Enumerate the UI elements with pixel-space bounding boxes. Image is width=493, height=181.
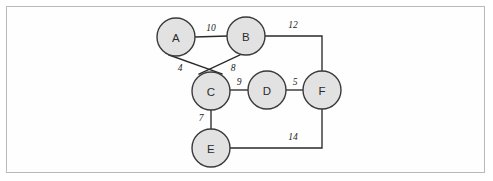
node-f[interactable]: F	[303, 71, 341, 109]
edge-weight-c-e: 7	[199, 113, 205, 123]
edge-weight-d-f: 5	[293, 77, 298, 87]
node-d[interactable]: D	[248, 71, 286, 109]
node-c[interactable]: C	[192, 72, 230, 110]
graph-canvas: A B C D E F 10	[0, 0, 493, 181]
node-a[interactable]: A	[157, 18, 195, 56]
edge-e-f	[230, 109, 322, 148]
node-f-label: F	[318, 85, 325, 97]
node-e-label: E	[207, 143, 215, 155]
edge-b-f	[265, 36, 322, 71]
edge-weight-a-b: 10	[206, 23, 216, 33]
node-group: A B C D E F	[157, 17, 341, 167]
edge-weight-a-c: 4	[178, 63, 183, 73]
node-a-label: A	[172, 32, 180, 44]
node-e[interactable]: E	[192, 129, 230, 167]
edge-a-b	[195, 36, 227, 37]
node-c-label: C	[207, 86, 216, 98]
node-b-label: B	[242, 31, 250, 43]
edge-weight-e-f: 14	[288, 132, 298, 142]
edge-weight-b-c: 8	[231, 63, 236, 73]
node-d-label: D	[263, 85, 272, 97]
edge-weight-b-f: 12	[288, 20, 298, 30]
node-b[interactable]: B	[227, 17, 265, 55]
figure-root: A B C D E F 10	[0, 0, 493, 181]
edge-weight-c-d: 9	[237, 77, 242, 87]
